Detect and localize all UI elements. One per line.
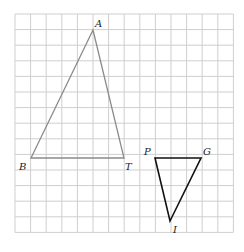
grid-diagram: A B T P G I — [0, 0, 244, 252]
vertex-label-p: P — [143, 146, 151, 157]
vertex-label-i: I — [172, 224, 178, 235]
vertex-label-b: B — [18, 161, 26, 172]
vertex-label-a: A — [94, 18, 102, 29]
triangle-pgi — [155, 158, 201, 221]
vertex-label-g: G — [203, 146, 211, 157]
